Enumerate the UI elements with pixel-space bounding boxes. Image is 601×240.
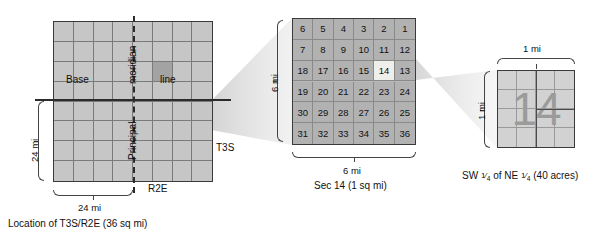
section-cell-2[interactable]: 2 [374,19,394,40]
brace-quarter-width [497,58,575,64]
township-cell[interactable] [94,141,114,161]
township-cell[interactable] [153,141,173,161]
township-cell[interactable] [153,42,173,62]
section-cell-8[interactable]: 8 [313,40,333,61]
township-cell[interactable] [54,102,74,122]
township-cell[interactable] [173,161,193,181]
township-cell[interactable] [94,102,114,122]
label-r2e: R2E [148,184,167,194]
township-cell[interactable] [192,42,212,62]
township-cell[interactable] [133,102,153,122]
township-cell[interactable] [54,161,74,181]
caption-quarter-tail: (40 acres) [533,170,578,181]
township-cell[interactable] [133,161,153,181]
section-cell-20[interactable]: 20 [313,82,333,103]
township-cell[interactable] [192,62,212,82]
section-cell-1[interactable]: 1 [395,19,415,40]
township-cell[interactable] [74,22,94,42]
township-cell[interactable] [113,161,133,181]
township-cell[interactable] [133,22,153,42]
township-cell[interactable] [74,121,94,141]
caption-quarter: SW 1⁄4 of NE 1⁄4 (40 acres) [462,170,578,183]
brace-section-width [292,152,416,158]
township-cell[interactable] [153,161,173,181]
section-cell-36[interactable]: 36 [395,123,415,144]
section-cell-21[interactable]: 21 [334,82,354,103]
section-cell-32[interactable]: 32 [313,123,333,144]
township-cell[interactable] [173,42,193,62]
township-cell[interactable] [54,141,74,161]
township-cell[interactable] [94,62,114,82]
label-quarter-width: 1 mi [523,44,541,54]
township-cell[interactable] [173,102,193,122]
township-cell[interactable] [173,121,193,141]
section-cell-10[interactable]: 10 [354,40,374,61]
township-cell[interactable] [153,102,173,122]
township-cell[interactable] [153,22,173,42]
caption-township: Location of T3S/R2E (36 sq mi) [8,218,147,229]
township-cell[interactable] [54,42,74,62]
section-cell-23[interactable]: 23 [374,82,394,103]
label-quarter-height: 1 mi [477,102,487,120]
township-cell[interactable] [192,22,212,42]
township-cell[interactable] [54,22,74,42]
label-principal: Principal [128,122,138,160]
township-cell[interactable] [74,141,94,161]
township-cell[interactable] [192,161,212,181]
section-cell-13[interactable]: 13 [395,61,415,82]
township-cell[interactable] [54,121,74,141]
township-cell[interactable] [192,102,212,122]
frac1-denominator: 4 [487,175,491,182]
section-cell-7[interactable]: 7 [293,40,313,61]
section-cell-35[interactable]: 35 [374,123,394,144]
section-cell-25[interactable]: 25 [395,102,415,123]
section-cell-30[interactable]: 30 [293,102,313,123]
fraction-one-quarter-b: 1⁄4 [521,172,531,182]
quarter-divider-horizontal [536,109,574,110]
section-cell-24[interactable]: 24 [395,82,415,103]
township-cell[interactable] [192,121,212,141]
section-cell-9[interactable]: 9 [334,40,354,61]
township-cell[interactable] [74,161,94,181]
section-cell-17[interactable]: 17 [313,61,333,82]
township-cell[interactable] [173,141,193,161]
section-cell-19[interactable]: 19 [293,82,313,103]
section-cell-18[interactable]: 18 [293,61,313,82]
township-cell[interactable] [153,121,173,141]
section-cell-26[interactable]: 26 [374,102,394,123]
caption-section: Sec 14 (1 sq mi) [314,180,387,191]
frac2-denominator: 4 [527,175,531,182]
section-cell-6[interactable]: 6 [293,19,313,40]
section-cell-28[interactable]: 28 [334,102,354,123]
fraction-one-quarter-a: 1⁄4 [481,172,491,182]
township-cell[interactable] [113,102,133,122]
township-cell[interactable] [173,22,193,42]
section-cell-34[interactable]: 34 [354,123,374,144]
section-cell-4[interactable]: 4 [334,19,354,40]
frac2-numerator: 1 [521,171,525,180]
township-cell[interactable] [192,141,212,161]
township-cell[interactable] [94,161,114,181]
section-cell-27[interactable]: 27 [354,102,374,123]
quarter-grid[interactable]: 14 [497,70,575,148]
section-cell-22[interactable]: 22 [354,82,374,103]
section-cell-14[interactable]: 14 [374,61,394,82]
township-cell[interactable] [94,22,114,42]
township-cell[interactable] [94,121,114,141]
section-cell-12[interactable]: 12 [395,40,415,61]
section-cell-29[interactable]: 29 [313,102,333,123]
township-cell[interactable] [113,22,133,42]
township-cell[interactable] [74,42,94,62]
section-cell-11[interactable]: 11 [374,40,394,61]
township-cell[interactable] [74,102,94,122]
section-cell-16[interactable]: 16 [334,61,354,82]
section-cell-33[interactable]: 33 [334,123,354,144]
township-cell[interactable] [94,42,114,62]
label-meridian: meridian [128,46,138,84]
label-section-width: 6 mi [343,166,361,176]
section-grid[interactable]: 6543217891011121817161514131920212223243… [292,18,416,145]
section-cell-31[interactable]: 31 [293,123,313,144]
section-cell-3[interactable]: 3 [354,19,374,40]
section-cell-15[interactable]: 15 [354,61,374,82]
section-cell-5[interactable]: 5 [313,19,333,40]
